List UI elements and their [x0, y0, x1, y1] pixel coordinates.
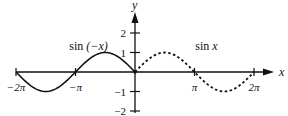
x-axis-arrow-icon [263, 69, 274, 76]
x-tick-label: 2π [248, 81, 260, 93]
axes [16, 12, 274, 113]
y-tick-label: 2 [121, 27, 127, 39]
y-tick-label: −2 [114, 105, 126, 116]
y-tick-label: −1 [114, 86, 126, 98]
origin-point [133, 70, 137, 74]
sine-graph: xy−2π−ππ2π21−1−2sin (−x)sin x [0, 0, 288, 116]
series-label: sin x [195, 39, 218, 53]
y-tick-label: 1 [121, 47, 127, 59]
x-axis-label: x [278, 65, 285, 79]
series-label: sin (−x) [69, 39, 107, 53]
y-axis-label: y [131, 0, 138, 12]
x-tick-label: −2π [7, 81, 26, 93]
x-tick-label: −π [69, 81, 82, 93]
labels: xy−2π−ππ2π21−1−2sin (−x)sin x [7, 0, 285, 116]
y-axis-arrow-icon [132, 12, 139, 23]
x-tick-label: π [192, 81, 198, 93]
